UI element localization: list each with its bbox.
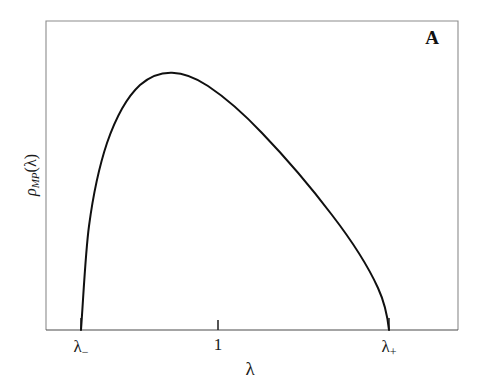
x-tick-label-lambda-plus: λ+ [381,337,396,359]
marchenko-pastur-figure: λ− 1 λ+ λ ρMP(λ) A [0,0,481,388]
chart-canvas: λ− 1 λ+ λ ρMP(λ) A [0,0,481,388]
panel-label-a: A [425,27,439,48]
plot-frame [46,21,458,330]
y-axis-title: ρMP(λ) [22,154,41,197]
x-tick-label-one: 1 [214,335,223,354]
x-axis-title: λ [245,358,255,379]
mp-density-curve [81,73,389,330]
x-tick-label-lambda-minus: λ− [73,337,88,359]
